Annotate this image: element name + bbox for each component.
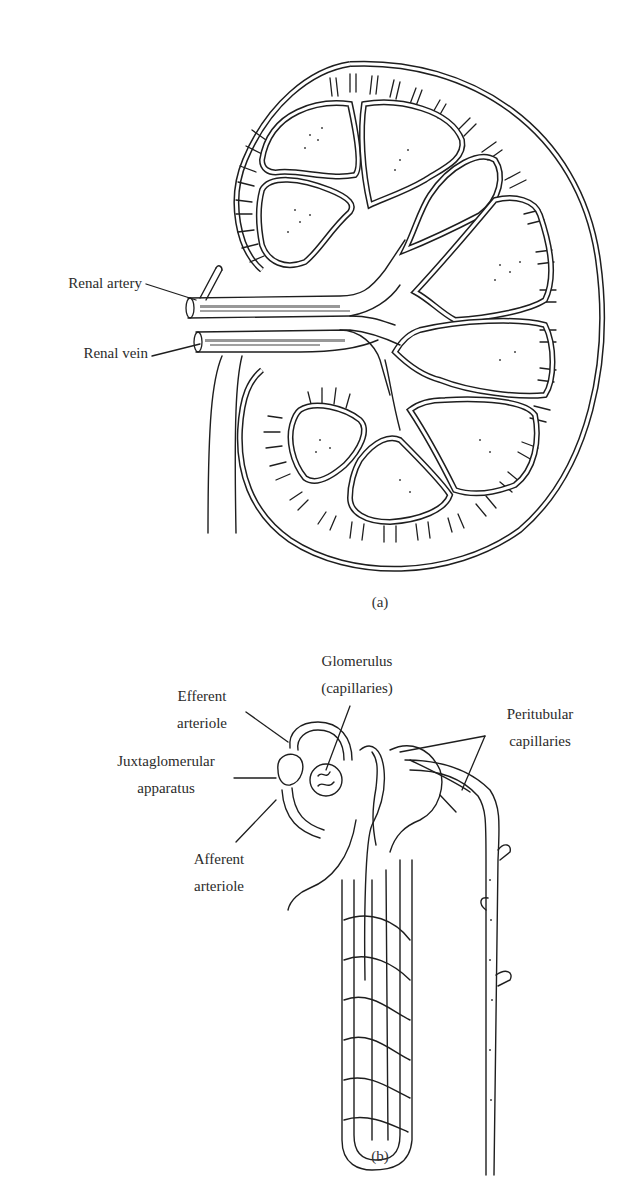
efferent-leader — [246, 712, 288, 742]
renal-pyramids — [259, 103, 553, 523]
efferent-line2: arteriole — [177, 710, 227, 737]
label-renal-artery: Renal artery — [20, 270, 142, 297]
nephron-diagram-panel: Glomerulus (capillaries) Efferent arteri… — [0, 620, 620, 1180]
afferent-leader — [236, 800, 276, 842]
afferent-line1: Afferent — [194, 846, 245, 873]
caption-b: (b) — [371, 1148, 389, 1165]
nephron-vessels — [278, 722, 511, 1175]
glomerulus-line2: (capillaries) — [321, 675, 393, 702]
peritubular-line2: capillaries — [507, 728, 574, 755]
afferent-line2: arteriole — [194, 873, 245, 900]
duct-stipple — [489, 879, 493, 1101]
label-glomerulus: Glomerulus (capillaries) — [321, 648, 393, 702]
leader-lines — [234, 706, 485, 842]
label-afferent-arteriole: Afferent arteriole — [194, 846, 245, 900]
glomerulus-line1: Glomerulus — [321, 648, 393, 675]
kidney-illustration — [0, 0, 620, 620]
label-peritubular-capillaries: Peritubular capillaries — [507, 701, 574, 755]
peritubular-leader-1 — [400, 736, 485, 752]
peritubular-line1: Peritubular — [507, 701, 574, 728]
renal-vessels — [186, 240, 405, 533]
juxta-line1: Juxtaglomerular — [117, 748, 214, 775]
juxta-line2: apparatus — [117, 775, 214, 802]
efferent-line1: Efferent — [177, 683, 227, 710]
label-efferent-arteriole: Efferent arteriole — [177, 683, 227, 737]
renal-artery-leader — [146, 284, 196, 300]
label-renal-vein: Renal vein — [30, 340, 148, 367]
renal-vein-leader — [152, 344, 200, 356]
kidney-diagram-panel: Renal artery Renal vein (a) — [0, 0, 620, 620]
caption-a: (a) — [372, 594, 389, 611]
label-juxtaglomerular-apparatus: Juxtaglomerular apparatus — [117, 748, 214, 802]
